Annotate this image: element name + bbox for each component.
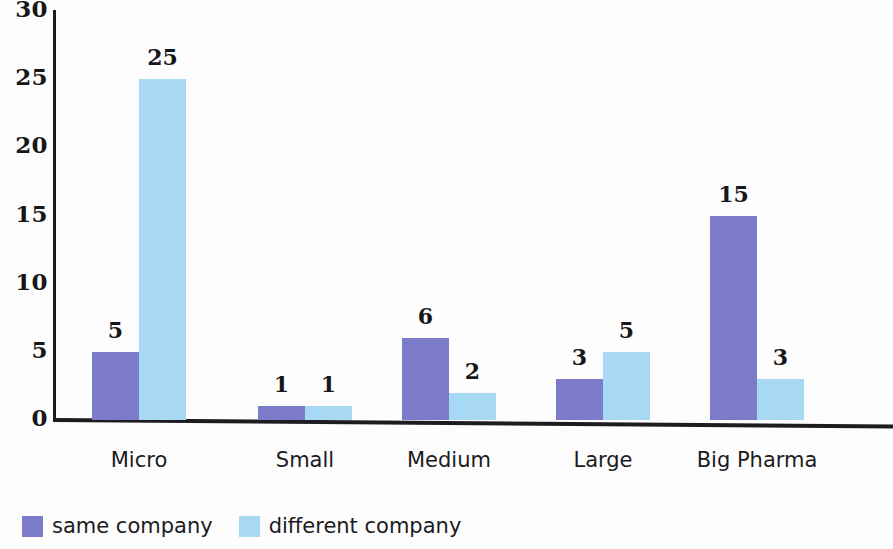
bar-value-label: 1 [258,371,305,397]
bar[interactable] [92,352,139,420]
x-axis-category-label: Medium [369,448,529,472]
bar-value-label: 3 [556,344,603,370]
bar[interactable] [556,379,603,420]
bar-group: 11 [258,10,352,420]
bar-group: 35 [556,10,650,420]
x-axis-category-label: Small [225,448,385,472]
y-tick-label: 5 [4,336,48,363]
plot-area: 525116235153 [56,10,893,420]
bar-group: 153 [710,10,804,420]
legend-entry[interactable]: same company [22,514,213,538]
x-axis-category-label: Big Pharma [677,448,837,472]
bar-value-label: 2 [449,358,496,384]
bar-value-label: 3 [757,344,804,370]
x-axis-category-labels: MicroSmallMediumLargeBig Pharma [56,448,893,484]
x-axis-category-label: Large [523,448,683,472]
y-tick-label: 0 [4,404,48,431]
bar[interactable] [603,352,650,420]
bar-value-label: 5 [92,317,139,343]
y-tick-label: 25 [4,63,48,90]
bar[interactable] [258,406,305,420]
legend-swatch [239,516,260,537]
bar-group: 525 [92,10,186,420]
x-axis-category-label: Micro [59,448,219,472]
legend-entry[interactable]: different company [239,514,462,538]
bar[interactable] [757,379,804,420]
bar-value-label: 25 [139,44,186,70]
chart-legend: same companydifferent company [22,514,461,538]
bar-group: 62 [402,10,496,420]
y-axis-tick-labels: 051015202530 [0,0,48,440]
y-tick-label: 10 [4,268,48,295]
y-tick-label: 30 [4,0,48,22]
bar-value-label: 15 [710,181,757,207]
y-tick-label: 20 [4,131,48,158]
bar[interactable] [305,406,352,420]
legend-label: same company [52,514,213,538]
bar-chart: 051015202530 525116235153 MicroSmallMedi… [0,0,893,549]
bar[interactable] [710,216,757,421]
legend-swatch [22,516,43,537]
legend-label: different company [269,514,462,538]
bar[interactable] [402,338,449,420]
bar[interactable] [449,393,496,420]
bar-value-label: 6 [402,303,449,329]
bar[interactable] [139,79,186,420]
bar-value-label: 1 [305,371,352,397]
bar-value-label: 5 [603,317,650,343]
y-tick-label: 15 [4,200,48,227]
